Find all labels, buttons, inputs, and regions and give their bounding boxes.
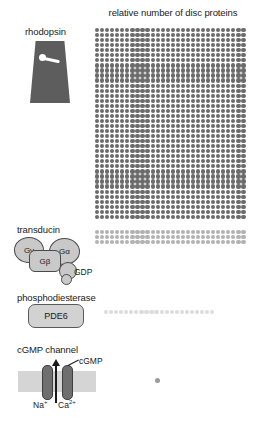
protein-dot bbox=[145, 179, 149, 183]
protein-dot bbox=[135, 154, 139, 158]
protein-dot bbox=[145, 200, 149, 204]
protein-dot bbox=[110, 129, 114, 133]
protein-dot bbox=[186, 114, 190, 118]
protein-dot bbox=[105, 114, 109, 118]
protein-dot bbox=[140, 28, 144, 32]
protein-dot bbox=[105, 53, 109, 57]
protein-dot bbox=[145, 174, 149, 178]
protein-dot bbox=[241, 210, 245, 214]
protein-dot bbox=[110, 38, 114, 42]
protein-dot bbox=[130, 169, 134, 173]
protein-dot bbox=[236, 104, 240, 108]
protein-dot bbox=[206, 68, 210, 72]
protein-dot bbox=[236, 159, 240, 163]
protein-dot bbox=[135, 38, 139, 42]
protein-dot bbox=[130, 84, 134, 88]
protein-dot bbox=[115, 149, 119, 153]
protein-dot bbox=[175, 310, 179, 314]
ion-flux-arrow-shaft bbox=[55, 363, 57, 403]
protein-dot bbox=[156, 84, 160, 88]
protein-dot bbox=[226, 89, 230, 93]
protein-dot bbox=[135, 190, 139, 194]
protein-dot bbox=[135, 89, 139, 93]
protein-dot bbox=[211, 84, 215, 88]
protein-dot bbox=[151, 129, 155, 133]
protein-dot bbox=[186, 169, 190, 173]
protein-dot bbox=[130, 99, 134, 103]
protein-dot bbox=[201, 109, 205, 113]
protein-dot bbox=[161, 164, 165, 168]
protein-dot bbox=[196, 144, 200, 148]
protein-dot bbox=[186, 104, 190, 108]
protein-dot bbox=[120, 159, 124, 163]
protein-dot bbox=[176, 205, 180, 209]
protein-dot bbox=[120, 84, 124, 88]
protein-dot bbox=[231, 200, 235, 204]
protein-dot bbox=[181, 119, 185, 123]
protein-dot bbox=[201, 38, 205, 42]
protein-dot bbox=[151, 230, 155, 234]
protein-dot bbox=[191, 184, 195, 188]
protein-dot bbox=[95, 94, 99, 98]
protein-dot bbox=[140, 78, 144, 82]
protein-dot bbox=[140, 84, 144, 88]
protein-dot bbox=[110, 200, 114, 204]
protein-dot bbox=[100, 159, 104, 163]
protein-dot bbox=[145, 195, 149, 199]
protein-dot bbox=[186, 53, 190, 57]
protein-dot bbox=[191, 73, 195, 77]
protein-dot bbox=[211, 114, 215, 118]
protein-dot bbox=[216, 99, 220, 103]
protein-dot bbox=[181, 38, 185, 42]
protein-dot bbox=[100, 154, 104, 158]
protein-dot bbox=[196, 139, 200, 143]
protein-dot bbox=[241, 124, 245, 128]
protein-dot bbox=[186, 164, 190, 168]
protein-dot bbox=[191, 38, 195, 42]
protein-dot bbox=[231, 210, 235, 214]
protein-dot bbox=[151, 73, 155, 77]
protein-dot bbox=[241, 119, 245, 123]
protein-dot bbox=[161, 195, 165, 199]
protein-dot bbox=[206, 129, 210, 133]
protein-dot bbox=[236, 78, 240, 82]
protein-dot bbox=[226, 94, 230, 98]
protein-dot bbox=[236, 68, 240, 72]
protein-dot bbox=[140, 190, 144, 194]
protein-dot bbox=[166, 240, 170, 244]
protein-dot bbox=[151, 174, 155, 178]
protein-dot bbox=[156, 200, 160, 204]
protein-dot bbox=[211, 144, 215, 148]
protein-dot bbox=[166, 94, 170, 98]
protein-dot bbox=[125, 89, 129, 93]
protein-dot bbox=[226, 210, 230, 214]
protein-dot bbox=[115, 43, 119, 47]
protein-dot bbox=[231, 154, 235, 158]
protein-dot bbox=[166, 58, 170, 62]
protein-dot bbox=[151, 205, 155, 209]
protein-dot bbox=[226, 58, 230, 62]
protein-dot bbox=[206, 230, 210, 234]
protein-dot bbox=[130, 154, 134, 158]
protein-dot bbox=[100, 63, 104, 67]
protein-dot bbox=[181, 179, 185, 183]
sodium-charge: + bbox=[44, 399, 48, 405]
protein-dot bbox=[201, 89, 205, 93]
protein-dot bbox=[226, 73, 230, 77]
protein-dot bbox=[241, 78, 245, 82]
protein-dot bbox=[145, 215, 149, 219]
protein-dot bbox=[151, 124, 155, 128]
protein-dot bbox=[105, 164, 109, 168]
protein-dot bbox=[176, 68, 180, 72]
protein-dot bbox=[115, 78, 119, 82]
protein-dot bbox=[120, 200, 124, 204]
protein-dot bbox=[135, 33, 139, 37]
protein-dot bbox=[216, 38, 220, 42]
protein-dot bbox=[161, 53, 165, 57]
protein-dot bbox=[110, 149, 114, 153]
protein-dot bbox=[120, 89, 124, 93]
protein-dot bbox=[115, 154, 119, 158]
protein-dot bbox=[231, 33, 235, 37]
protein-dot bbox=[201, 99, 205, 103]
protein-dot bbox=[145, 119, 149, 123]
